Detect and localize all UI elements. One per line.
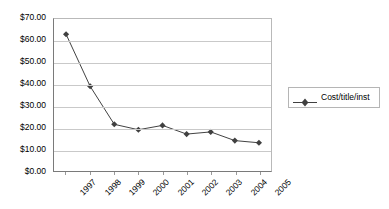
x-tick-label: 2001 bbox=[175, 177, 195, 197]
y-tick-label: $60.00 bbox=[20, 35, 46, 44]
legend-label: Cost/title/inst bbox=[321, 93, 370, 102]
x-tick-mark bbox=[163, 172, 164, 175]
x-tick-label: 2002 bbox=[199, 177, 219, 197]
x-axis: 199719981999200020012002200320042005 bbox=[53, 173, 272, 209]
x-tick-mark bbox=[65, 172, 66, 175]
x-tick-label: 2005 bbox=[272, 177, 292, 197]
x-tick-label: 1998 bbox=[102, 177, 122, 197]
data-point-marker bbox=[256, 140, 262, 146]
data-point-marker bbox=[184, 131, 190, 137]
legend-marker-icon bbox=[293, 93, 317, 102]
y-tick-label: $20.00 bbox=[20, 123, 46, 132]
gridline bbox=[54, 41, 271, 42]
y-tick-label: $0.00 bbox=[25, 167, 46, 176]
x-tick-mark bbox=[138, 172, 139, 175]
data-point-marker bbox=[111, 121, 117, 127]
y-axis: $0.00$10.00$20.00$30.00$40.00$50.00$60.0… bbox=[0, 0, 50, 209]
x-tick-label: 1999 bbox=[126, 177, 146, 197]
y-tick-label: $30.00 bbox=[20, 101, 46, 110]
gridline bbox=[54, 129, 271, 130]
y-tick-label: $70.00 bbox=[20, 13, 46, 22]
y-tick-label: $50.00 bbox=[20, 57, 46, 66]
y-tick-label: $10.00 bbox=[20, 145, 46, 154]
data-point-marker bbox=[232, 138, 238, 144]
gridline bbox=[54, 151, 271, 152]
data-point-marker bbox=[159, 122, 165, 128]
x-tick-mark bbox=[260, 172, 261, 175]
x-tick-mark bbox=[187, 172, 188, 175]
x-tick-mark bbox=[90, 172, 91, 175]
legend: Cost/title/inst bbox=[288, 87, 380, 108]
plot-area bbox=[53, 18, 272, 172]
gridline bbox=[54, 63, 271, 64]
x-tick-label: 2003 bbox=[224, 177, 244, 197]
x-tick-label: 2004 bbox=[248, 177, 268, 197]
gridline bbox=[54, 107, 271, 108]
legend-item-cost-title-inst: Cost/title/inst bbox=[293, 93, 370, 102]
chart-container: $0.00$10.00$20.00$30.00$40.00$50.00$60.0… bbox=[0, 0, 389, 209]
x-tick-mark bbox=[114, 172, 115, 175]
y-tick-label: $40.00 bbox=[20, 79, 46, 88]
data-point-marker bbox=[63, 31, 69, 37]
gridline bbox=[54, 85, 271, 86]
x-tick-mark bbox=[211, 172, 212, 175]
x-tick-mark bbox=[236, 172, 237, 175]
x-tick-label: 1997 bbox=[78, 177, 98, 197]
x-tick-label: 2000 bbox=[151, 177, 171, 197]
